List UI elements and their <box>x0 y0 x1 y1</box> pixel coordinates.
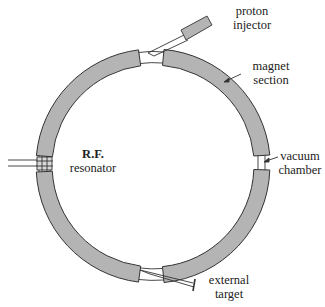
label-vacuum-chamber-line1: vacuum <box>272 149 325 163</box>
label-proton-injector-line2: injector <box>222 18 282 32</box>
label-external-target: external target <box>200 273 258 301</box>
injector-box <box>181 16 212 40</box>
label-external-target-line1: external <box>200 273 258 287</box>
label-magnet-section-line2: section <box>243 73 299 87</box>
label-vacuum-chamber-line2: chamber <box>272 163 325 177</box>
proton-injector <box>148 16 212 56</box>
label-magnet-section: magnet section <box>243 59 299 87</box>
magnet-section-bottom-right <box>163 170 270 283</box>
label-rf-resonator-line1: R.F. <box>58 147 128 161</box>
magnet-section-bottom-left <box>36 171 140 282</box>
label-proton-injector-line1: proton <box>222 4 282 18</box>
label-proton-injector: proton injector <box>222 4 282 32</box>
label-vacuum-chamber: vacuum chamber <box>272 149 325 177</box>
label-rf-resonator-line2: resonator <box>58 161 128 175</box>
magnet-section-top-left <box>36 50 140 157</box>
label-rf-resonator: R.F. resonator <box>58 147 128 175</box>
label-external-target-line2: target <box>200 287 258 301</box>
label-magnet-section-line1: magnet <box>243 59 299 73</box>
rf-resonator <box>8 156 53 171</box>
